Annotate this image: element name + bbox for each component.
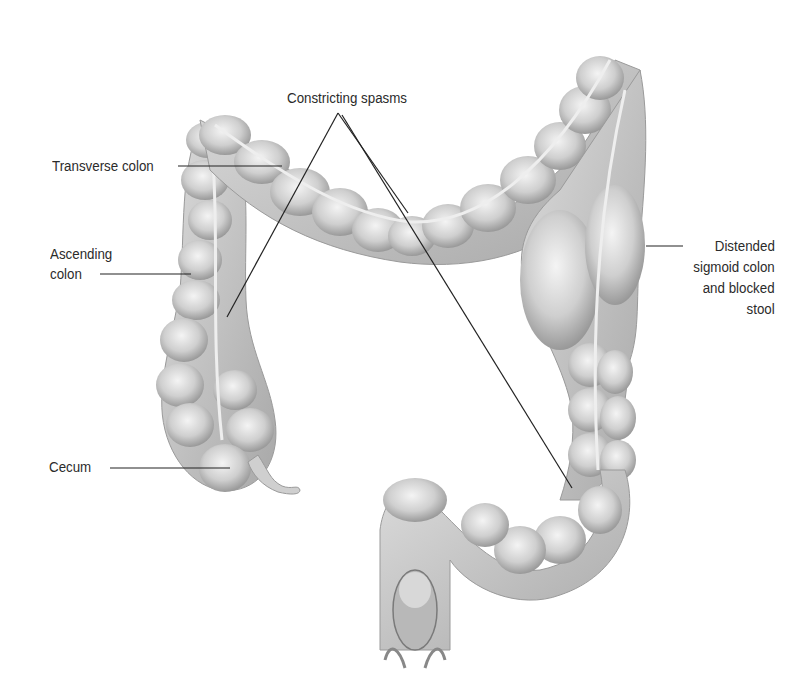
label-distended-line4: stool bbox=[747, 299, 775, 318]
label-distended-line2: sigmoid colon bbox=[693, 257, 775, 276]
label-distended-line1: Distended bbox=[715, 236, 775, 255]
label-ascending-colon-line1: Ascending bbox=[50, 244, 112, 263]
label-ascending-colon-line2: colon bbox=[50, 264, 82, 283]
label-distended-line3: and blocked bbox=[703, 278, 775, 297]
label-constricting-spasms: Constricting spasms bbox=[287, 88, 407, 107]
colon-diagram: Constricting spasms Transverse colon Asc… bbox=[0, 0, 796, 691]
label-transverse-colon: Transverse colon bbox=[52, 156, 154, 175]
label-cecum: Cecum bbox=[49, 457, 91, 476]
sigmoid-rectum bbox=[380, 470, 630, 668]
